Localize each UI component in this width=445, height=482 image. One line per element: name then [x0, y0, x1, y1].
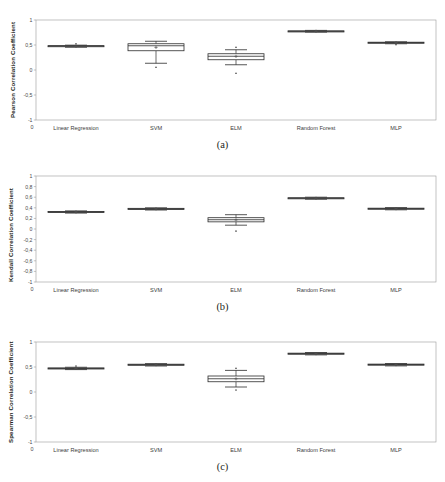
boxplot-box [368, 207, 424, 210]
x-category-label: MLP [390, 447, 402, 453]
y-tick-label: 0 [30, 67, 33, 73]
x-category-label: Linear Regression [53, 447, 98, 453]
y-tick-label: 0,8 [25, 184, 32, 190]
boxplot-box [288, 197, 344, 200]
panel-caption-c: (c) [0, 461, 445, 472]
origin-label: 0 [31, 286, 34, 292]
x-category-label: SVM [150, 125, 162, 131]
boxplot-box [288, 352, 344, 355]
boxplot-box [368, 41, 424, 45]
y-tick-label: -0,6 [24, 258, 33, 264]
boxplot-box [128, 207, 184, 210]
boxplot-box [208, 46, 264, 74]
panel-a: Pearson Correlation Coefficient 10,50-0,… [0, 0, 445, 160]
figure-boxplot-correlations: Pearson Correlation Coefficient 10,50-0,… [0, 0, 445, 482]
y-tick-label: 1 [30, 173, 33, 179]
y-tick-label: -1 [28, 117, 33, 123]
y-tick-label: 0,4 [25, 205, 32, 211]
x-category-label: Linear Regression [53, 287, 98, 293]
panel-c: Spearman Correlation Coefficient 10,50-0… [0, 322, 445, 482]
boxplot-box [128, 41, 184, 68]
panel-caption-a: (a) [0, 139, 445, 150]
x-category-label: Linear Regression [53, 125, 98, 131]
boxplot-box [48, 43, 104, 48]
boxplot-box [208, 215, 264, 232]
y-tick-label: 0 [30, 226, 33, 232]
plot-area-a: 10,50-0,5-10Linear RegressionSVMELMRando… [0, 0, 445, 160]
y-tick-label: -1 [28, 279, 33, 285]
x-category-label: ELM [230, 287, 242, 293]
y-tick-label: 0 [30, 389, 33, 395]
boxplot-box [368, 363, 424, 366]
x-category-label: Random Forest [297, 287, 336, 293]
origin-label: 0 [31, 124, 34, 130]
x-category-label: MLP [390, 125, 402, 131]
boxplot-box [48, 365, 104, 370]
plot-svg-a: 10,50-0,5-10Linear RegressionSVMELMRando… [0, 0, 445, 160]
plot-area-b: 10,80,60,40,20-0,2-0,4-0,6-0,8-10Linear … [0, 160, 445, 322]
plot-svg-c: 10,50-0,5-10Linear RegressionSVMELMRando… [0, 322, 445, 482]
panel-b: Kendall Correlation Coefficient 10,80,60… [0, 160, 445, 322]
y-tick-label: 1 [30, 339, 33, 345]
y-tick-label: 0,5 [25, 42, 32, 48]
x-category-label: SVM [150, 447, 162, 453]
y-tick-label: 0,2 [25, 215, 32, 221]
x-category-label: ELM [230, 447, 242, 453]
x-category-label: Random Forest [297, 125, 336, 131]
boxplot-box [288, 30, 344, 33]
panel-caption-b: (b) [0, 301, 445, 312]
y-tick-label: -0,5 [24, 414, 33, 420]
y-tick-label: -1 [28, 439, 33, 445]
boxplot-box [48, 210, 104, 213]
y-tick-label: 0,5 [25, 364, 32, 370]
boxplot-box [128, 363, 184, 366]
y-tick-label: -0,5 [24, 92, 33, 98]
x-category-label: Random Forest [297, 447, 336, 453]
y-tick-label: 0,6 [25, 194, 32, 200]
origin-label: 0 [31, 446, 34, 452]
y-tick-label: -0,2 [24, 237, 33, 243]
x-category-label: SVM [150, 287, 162, 293]
x-category-label: ELM [230, 125, 242, 131]
plot-area-c: 10,50-0,5-10Linear RegressionSVMELMRando… [0, 322, 445, 482]
x-category-label: MLP [390, 287, 402, 293]
boxplot-box [208, 367, 264, 390]
plot-svg-b: 10,80,60,40,20-0,2-0,4-0,6-0,8-10Linear … [0, 160, 445, 322]
y-tick-label: 1 [30, 17, 33, 23]
y-tick-label: -0,4 [24, 247, 33, 253]
y-tick-label: -0,8 [24, 268, 33, 274]
